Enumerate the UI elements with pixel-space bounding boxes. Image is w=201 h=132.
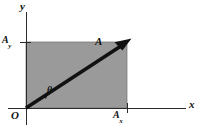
component-y-label: Ay (2, 35, 12, 48)
x-axis-label: x (189, 99, 195, 110)
figure-canvas (0, 0, 201, 132)
angle-theta-label: θ (47, 85, 52, 95)
vector-components-figure: y x O A θ Ay Ax (0, 0, 201, 132)
component-y-subscript: y (8, 42, 11, 50)
origin-label: O (11, 110, 19, 121)
component-x-subscript: x (119, 117, 123, 125)
vector-label: A (95, 36, 102, 47)
component-x-label: Ax (113, 110, 123, 123)
y-axis-label: y (20, 1, 25, 12)
